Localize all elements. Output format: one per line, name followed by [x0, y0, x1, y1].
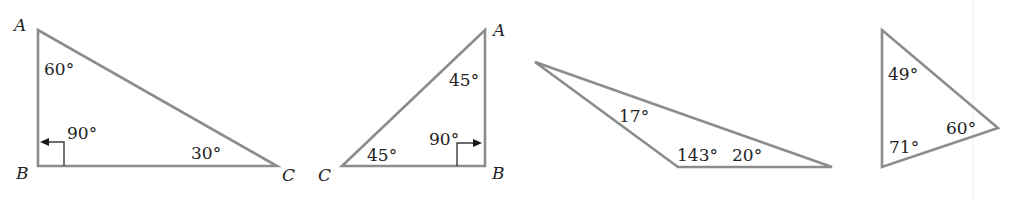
angle-label-b: 90°: [429, 129, 459, 149]
right-angle-marker: [40, 138, 64, 166]
triangle-2: A B C 45° 90° 45°: [318, 20, 505, 185]
angle-label-c: 30°: [191, 143, 221, 163]
angle-label-a: 60°: [44, 59, 74, 79]
angle-label-a: 45°: [449, 70, 479, 90]
angle-label-bottom: 71°: [889, 137, 919, 157]
angle-label-top: 49°: [888, 64, 918, 84]
vertex-label-c: C: [318, 165, 331, 185]
triangle-3: 17° 143° 20°: [535, 62, 832, 167]
angle-label-bottom-left: 143°: [677, 145, 718, 165]
triangle-2-outline: [342, 30, 485, 166]
arrow-icon: [473, 139, 482, 147]
arrow-icon: [40, 138, 49, 146]
triangles-diagram: A B C 60° 90° 30° A B C 45° 90° 45° 17° …: [0, 0, 1018, 199]
angle-label-b: 90°: [67, 123, 97, 143]
vertex-label-a: A: [491, 20, 505, 40]
angle-label-right: 60°: [946, 118, 976, 138]
triangle-4: 49° 71° 60°: [882, 30, 998, 167]
vertex-label-c: C: [282, 165, 295, 185]
vertex-label-a: A: [12, 15, 26, 35]
triangle-1: A B C 60° 90° 30°: [12, 15, 295, 185]
angle-label-c: 45°: [367, 145, 397, 165]
right-angle-marker: [457, 139, 482, 166]
vertex-label-b: B: [15, 163, 29, 183]
angle-label-right: 20°: [732, 145, 762, 165]
angle-label-top-left: 17°: [619, 106, 649, 126]
triangle-1-outline: [38, 30, 277, 166]
vertex-label-b: B: [491, 163, 505, 183]
